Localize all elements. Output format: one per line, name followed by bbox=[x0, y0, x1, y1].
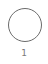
step-number-label: 1 bbox=[0, 48, 48, 59]
step-indicator[interactable]: 1 bbox=[0, 0, 48, 64]
empty-circle-icon[interactable] bbox=[8, 8, 42, 42]
